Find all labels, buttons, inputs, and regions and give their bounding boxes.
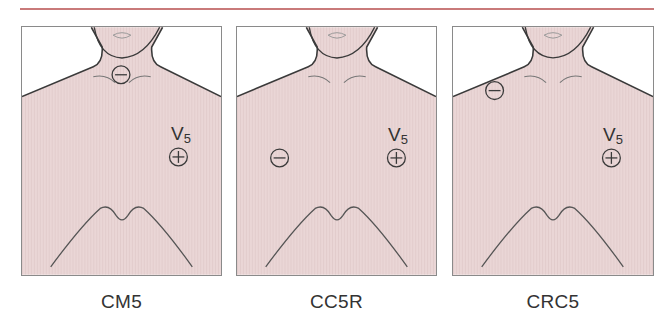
torso-illustration — [237, 27, 436, 275]
panel-cm5: V5 — [21, 26, 222, 276]
caption-crc5: CRC5 — [452, 291, 654, 313]
lead-label-v5: V5 — [603, 125, 623, 146]
lead-label-v5: V5 — [388, 125, 408, 146]
caption-cm5: CM5 — [21, 291, 222, 313]
torso-illustration — [453, 27, 653, 275]
panel-crc5: V5 — [452, 26, 654, 276]
panel-cc5r: V5 — [236, 26, 437, 276]
header-rule — [20, 8, 654, 10]
caption-cc5r: CC5R — [236, 291, 437, 313]
torso-illustration — [22, 27, 221, 275]
lead-label-v5: V5 — [171, 124, 191, 145]
